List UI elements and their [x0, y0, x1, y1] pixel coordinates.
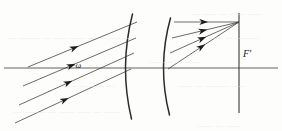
- second-principal-surface: [163, 18, 170, 115]
- incident-rays-group: [15, 22, 137, 123]
- lens-surfaces-group: [125, 14, 170, 119]
- first-principal-surface: [125, 14, 132, 119]
- ray-diagram-canvas: [0, 0, 282, 131]
- rear-focal-point-label: F': [243, 48, 251, 59]
- refracted-ray-line-3: [168, 22, 239, 69]
- refracted-ray-line-2: [170, 22, 239, 53]
- field-angle-label: −ω: [70, 61, 81, 70]
- optics-figure: — —— — —— ——— ——— — —— —— — ——— ——— — ——…: [0, 0, 282, 131]
- refracted-rays-group: [168, 22, 239, 69]
- incident-ray-line-3: [15, 69, 131, 123]
- refracted-ray-line-1: [172, 22, 239, 38]
